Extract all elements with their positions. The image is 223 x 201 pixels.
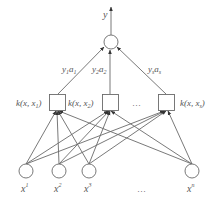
weight-label-2: y2a2: [91, 64, 107, 75]
kernel-label-2: k(x, x2): [68, 98, 93, 109]
input-node-1: [19, 164, 33, 178]
kernel-box-s: [159, 95, 175, 111]
input-node-2: [52, 164, 66, 178]
kernel-ellipsis: …: [132, 98, 141, 108]
input-label-n: xn: [186, 182, 194, 194]
kernel-label-s: k(x, xs): [180, 98, 205, 109]
output-node: [104, 35, 118, 49]
kernel-box-2: [103, 95, 119, 111]
input-label-1: x1: [20, 182, 28, 194]
input-node-n: [185, 164, 199, 178]
input-label-3: x3: [83, 182, 91, 194]
weight-label-s: ysas: [147, 64, 162, 75]
input-ellipsis: …: [137, 184, 146, 194]
kernel-box-1: [50, 95, 66, 111]
input-label-2: x2: [53, 182, 61, 194]
weight-label-1: y1a1: [61, 64, 77, 75]
svm-network-diagram: y y1a1 y2a2 ysas k(x, x1) k(x, x2) k(x, …: [0, 0, 223, 201]
input-node-3: [82, 164, 96, 178]
kernel-label-1: k(x, x1): [16, 98, 41, 109]
input-kernel-edges: [26, 111, 192, 164]
output-label: y: [102, 9, 108, 20]
